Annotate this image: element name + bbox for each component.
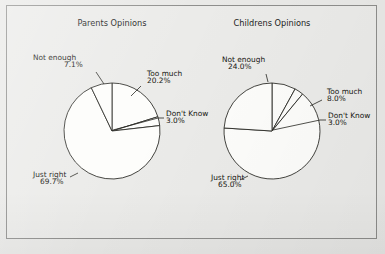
slice-percent-not-enough: 24.0% (228, 62, 251, 71)
slice-percent-too-much: 8.0% (327, 94, 346, 103)
slice-percent-not-enough: 7.1% (64, 60, 83, 69)
charts-layer: Parents OpinionsToo much20.2%Don't Know3… (32, 18, 370, 189)
chart-title-1: Childrens Opinions (234, 18, 311, 28)
slice-percent-too-much: 20.2% (147, 76, 170, 85)
pie-chart-0: Parents OpinionsToo much20.2%Don't Know3… (32, 18, 208, 186)
pie-charts-canvas: Parents OpinionsToo much20.2%Don't Know3… (0, 0, 385, 254)
slice-percent-don-t-know: 3.0% (166, 116, 185, 125)
slice-percent-just-right: 69.7% (40, 177, 63, 186)
leader-line-0-3 (96, 72, 104, 84)
caption-strip (0, 243, 385, 254)
leader-line-1-3 (266, 74, 268, 82)
leader-line-1-0 (310, 100, 322, 106)
slice-percent-just-right: 65.0% (218, 180, 241, 189)
leader-line-0-2 (70, 173, 78, 177)
slice-percent-don-t-know: 3.0% (328, 118, 347, 127)
figure-root: Parents OpinionsToo much20.2%Don't Know3… (0, 0, 385, 254)
chart-title-0: Parents Opinions (78, 18, 147, 28)
pie-slice-not-enough (224, 83, 272, 131)
pie-chart-1: Childrens OpinionsToo much8.0%Don't Know… (210, 18, 370, 189)
